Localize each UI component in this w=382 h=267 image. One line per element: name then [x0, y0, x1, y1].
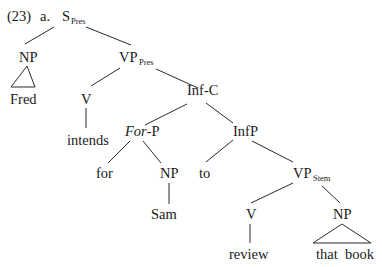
node-label: For-P: [124, 123, 160, 139]
edge: [251, 183, 293, 203]
triangle-roof-icon: [313, 224, 371, 243]
node-inf-p: InfP: [233, 123, 258, 139]
node-label: S: [62, 8, 70, 24]
triangle-roof-icon: [11, 66, 35, 87]
leaf-word: intends: [67, 132, 109, 148]
node-np-sam: NP Sam: [151, 165, 179, 222]
edge: [145, 104, 187, 125]
node-np-subject: NP Fred: [10, 49, 38, 107]
node-label: InfP: [233, 123, 258, 139]
node-v-main: V intends: [67, 91, 109, 148]
node-vp-stem: VP Stem: [293, 165, 331, 183]
node-np-object: NP that book: [313, 206, 375, 262]
leaf-for: for: [96, 165, 113, 181]
node-label: NP: [333, 206, 352, 222]
node-label: NP: [160, 165, 179, 181]
node-label: Inf-C: [187, 82, 218, 98]
node-vp-pres: VP Pres: [119, 49, 154, 67]
edge: [91, 68, 120, 86]
edge: [206, 140, 233, 162]
leaf-word: Fred: [10, 91, 37, 107]
example-number: (23): [7, 8, 31, 25]
leaf-word: that book: [316, 246, 375, 262]
node-v-review: V review: [229, 206, 269, 262]
node-subscript: Pres: [71, 16, 86, 26]
node-inf-c: Inf-C: [187, 82, 218, 98]
node-label: V: [246, 206, 257, 222]
node-subscript: Pres: [139, 57, 154, 67]
node-label: NP: [19, 49, 38, 65]
example-sub-label: a.: [40, 8, 50, 24]
edge: [25, 27, 54, 44]
edge: [86, 27, 131, 45]
node-label: V: [81, 91, 92, 107]
node-s-pres: S Pres: [62, 8, 86, 26]
edge: [143, 141, 161, 163]
edge: [322, 186, 340, 203]
leaf-word: Sam: [151, 206, 178, 222]
edge: [252, 141, 293, 162]
node-label: VP: [293, 165, 312, 181]
leaf-word: review: [229, 246, 269, 262]
leaf-to: to: [199, 165, 210, 181]
node-label: VP: [119, 49, 138, 65]
edge: [206, 103, 233, 123]
syntax-tree-diagram: (23) a. S Pres NP Fred VP Pres V intends…: [0, 0, 382, 267]
edge: [108, 141, 130, 163]
node-for-p: For-P: [124, 123, 160, 139]
node-subscript: Stem: [313, 173, 331, 183]
